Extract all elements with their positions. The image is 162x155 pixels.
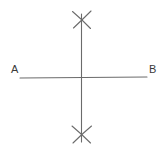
geometry-diagram: A B	[0, 0, 162, 155]
horizontal-line-ab	[20, 77, 147, 78]
point-label-a: A	[11, 64, 18, 75]
diagram-canvas	[0, 0, 162, 155]
top-arc-right	[74, 11, 92, 28]
point-label-b: B	[149, 64, 156, 75]
